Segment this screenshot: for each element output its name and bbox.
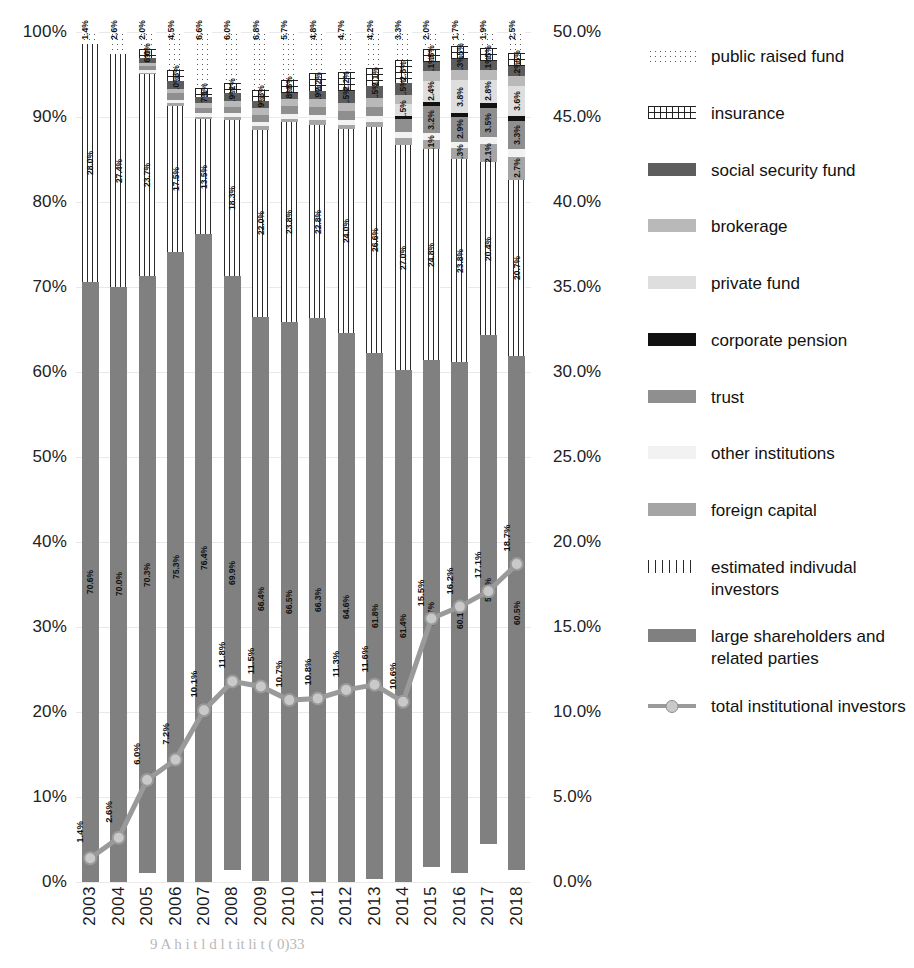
x-axis-tick-label: 2016 [450,886,470,926]
legend-label: estimated indivudal investors [711,557,910,601]
bar-segment-trust [252,115,269,122]
legend-label: private fund [711,273,800,295]
bar-group: 5.7%1.5%0.8%23.8%66.5% [275,32,303,882]
x-axis-tick-label: 2007 [194,886,214,926]
bar-group: 4.5%1.3%1.0%17.5%75.3% [161,32,189,882]
x-axis-tick: 2006 [161,886,189,926]
legend-item[interactable]: trust [648,387,910,409]
bar-segment-foreign [395,138,412,145]
stacked-bar: 6.8%1.3%0.9%22.0%66.4% [252,32,269,882]
y-axis-left-tick: 80% [32,192,76,212]
legend-item[interactable]: corporate pension [648,330,910,352]
bar-segment-private: 2.4% [423,81,440,101]
x-axis-tick: 2004 [104,886,132,926]
legend-item[interactable]: large shareholders and related parties [648,626,910,670]
segment-value-label: 70.6% [85,570,95,594]
legend-item[interactable]: private fund [648,273,910,295]
y-axis-left-tick: 60% [32,362,76,382]
legend-item[interactable]: brokerage [648,216,910,238]
segment-value-label: 2.4% [426,82,436,101]
legend-swatch-private [648,276,696,289]
stacked-bar: 6.0%1.2%0.9%18.3%69.9% [224,32,241,882]
segment-value-label: 3.3% [512,126,522,145]
legend-item[interactable]: other institutions [648,443,910,465]
bar-segment-ssf: 1.5% [366,86,383,99]
segment-value-label: 23.7% [142,163,152,187]
legend-item[interactable]: social security fund [648,160,910,182]
bar-segment-brokerage [423,71,440,81]
stacked-bar: 2.5%1.5%1.2%3.6%3.3%2.7%20.7%60.5% [508,32,525,882]
bar-segment-brokerage [451,70,468,80]
legend-swatch-line-marker [648,699,696,712]
bar-segment-other [508,149,525,157]
segment-value-label: 59.8% [483,577,493,601]
segment-value-label: 61.8% [370,604,380,628]
segment-value-label: 76.4% [199,546,209,570]
legend-marker-dot [666,700,679,713]
x-axis-tick-label: 2005 [137,886,157,926]
bar-segment-large: 59.8% [480,335,497,843]
stacked-bar: 4.2%2.1%1.5%26.6%61.8% [366,32,383,882]
segment-value-label: 4.5% [166,20,176,39]
bar-segment-public: 6.0% [224,32,241,83]
bar-group: 4.7%2.2%1.5%24.0%64.6% [332,32,360,882]
bar-group: 2.0%1.5%1.1%2.4%3.2%1.1%24.8%59.7% [417,32,445,882]
bar-segment-foreign: 2.7% [508,157,525,180]
y-axis-left-tick: 90% [32,107,76,127]
bar-segment-ssf: 1.0% [167,81,184,89]
segment-value-label: 22.8% [313,209,323,233]
segment-value-label: 64.6% [341,595,351,619]
bar-segment-private: 1.5% [395,104,412,117]
gridline [76,882,531,883]
bar-segment-foreign: 1.1% [423,140,440,149]
bar-segment-individual: 27.0% [395,145,412,370]
y-axis-right-tick: 45.0% [531,107,601,127]
y-axis-right-tick: 10.0% [531,702,601,722]
bar-segment-large: 66.4% [252,317,269,881]
legend-swatch-ssf [648,163,696,176]
legend-label: corporate pension [711,330,847,352]
legend-item[interactable]: estimated indivudal investors [648,557,910,601]
y-axis-left-tick: 0% [42,872,76,892]
plot-area: 0%0.0%10%5.0%20%10.0%30%15.0%40%20.0%50%… [76,32,531,882]
bar-segment-brokerage [338,103,355,111]
segment-value-label: 18.3% [227,186,237,210]
bar-segment-trust [281,106,298,114]
figure-caption: 9 A h i t l d l t it li t ( 0)33 [150,936,850,953]
legend-item[interactable]: public raised fund [648,46,910,68]
x-axis-tick: 2005 [133,886,161,926]
legend-item[interactable]: insurance [648,103,910,125]
segment-value-label: 2.8% [398,61,408,80]
bar-segment-public: 4.8% [309,32,326,73]
segment-value-label: 1.7% [450,20,460,39]
segment-value-label: 5.7% [279,20,289,39]
segment-value-label: 60.1% [455,605,465,629]
bar-segment-brokerage [281,99,298,106]
segment-value-label: 69.9% [227,561,237,585]
segment-value-label: 59.7% [426,602,436,626]
stacked-bar: 2.6%27.4%70.0% [110,32,127,882]
segment-value-label: 17.5% [171,167,181,191]
bar-segment-foreign: 2.1% [480,144,497,162]
bar-segment-individual: 27.4% [110,54,127,287]
bar-segment-individual: 24.0% [338,129,355,333]
bar-segment-public: 5.7% [281,32,298,80]
x-axis-labels: 2003200420052006200720082009201020112012… [76,886,531,926]
segment-value-label: 60.5% [512,601,522,625]
bar-segment-individual: 17.5% [167,106,184,252]
legend-item[interactable]: total institutional investors [648,696,910,718]
y-axis-right-tick: 25.0% [531,447,601,467]
y-axis-left-tick: 70% [32,277,76,297]
bar-segment-trust: 2.9% [451,117,468,142]
legend-label: large shareholders and related parties [711,626,910,670]
bar-segment-public: 6.8% [252,32,269,90]
legend-label: social security fund [711,160,856,182]
y-axis-left-tick: 20% [32,702,76,722]
bar-segment-large: 61.8% [366,353,383,878]
legend-item[interactable]: foreign capital [648,500,910,522]
segment-value-label: 3.5% [483,113,493,132]
x-axis-tick-label: 2004 [109,886,129,926]
bar-segment-public: 4.5% [167,32,184,70]
stacked-bar: 6.6%1.1%0.7%13.5%76.4% [195,32,212,882]
bar-segment-ssf: 1.1% [480,61,497,70]
